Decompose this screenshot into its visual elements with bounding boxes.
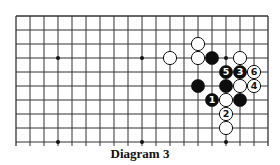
- white-stone-4: 4: [247, 79, 260, 92]
- black-stone: [233, 93, 246, 106]
- white-stone-6: 6: [247, 65, 260, 78]
- star-point-icon: [140, 56, 144, 60]
- move-number: 3: [237, 66, 244, 77]
- star-point-icon: [56, 56, 60, 60]
- black-stone-1: 1: [205, 93, 218, 106]
- star-point-icon: [56, 140, 60, 144]
- black-stone: [219, 79, 232, 92]
- move-number: 5: [223, 66, 230, 77]
- move-number: 1: [209, 94, 216, 105]
- diagram-caption: Diagram 3: [0, 146, 280, 162]
- black-stone: [191, 79, 204, 92]
- white-stone: [233, 79, 246, 92]
- black-stone-5: 5: [219, 65, 232, 78]
- white-stone: [191, 37, 204, 50]
- white-stone: [233, 51, 246, 64]
- move-number: 6: [251, 66, 258, 77]
- move-number: 2: [223, 108, 230, 119]
- black-stone-3: 3: [233, 65, 246, 78]
- white-stone: [219, 121, 232, 134]
- star-point-icon: [224, 140, 228, 144]
- white-stone: [163, 51, 176, 64]
- move-number: 4: [251, 80, 258, 91]
- go-board: 536412: [0, 0, 280, 150]
- star-point-icon: [140, 140, 144, 144]
- white-stone: [219, 93, 232, 106]
- white-stone-2: 2: [219, 107, 232, 120]
- white-stone: [191, 51, 204, 64]
- star-point-icon: [224, 56, 228, 60]
- black-stone: [205, 51, 218, 64]
